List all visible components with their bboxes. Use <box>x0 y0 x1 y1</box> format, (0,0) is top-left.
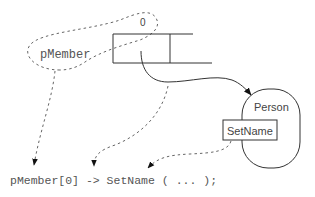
diagram-svg: pMember 0 Person SetName pMember[0] -> S… <box>0 0 315 197</box>
object-label: Person <box>254 101 289 113</box>
array-index-label: 0 <box>140 17 146 28</box>
element-to-object-arrow <box>141 51 251 95</box>
diagram-canvas: pMember 0 Person SetName pMember[0] -> S… <box>0 0 315 197</box>
code-expression: pMember[0] -> SetName ( ... ); <box>10 174 217 187</box>
pointer-to-code-arrow <box>34 71 55 165</box>
method-to-call-arrow <box>148 141 231 168</box>
element-to-operator-arrow <box>94 86 168 166</box>
method-label: SetName <box>227 125 273 137</box>
pointer-variable-label: pMember <box>40 48 90 62</box>
